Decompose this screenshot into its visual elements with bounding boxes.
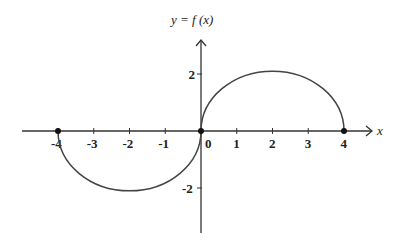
- x-tick-label: -3: [87, 136, 98, 151]
- closed-endpoint-dot: [341, 128, 347, 134]
- closed-endpoint-dot: [55, 128, 61, 134]
- function-curve: [201, 71, 344, 131]
- axes: [22, 40, 372, 233]
- x-tick-label: 3: [305, 136, 312, 151]
- y-tick-label: 2: [189, 67, 196, 82]
- x-tick-label: 0: [205, 136, 212, 151]
- x-tick-label: -2: [123, 136, 134, 151]
- y-axis-title: y = f (x): [169, 12, 213, 27]
- x-tick-label: -1: [158, 136, 169, 151]
- x-axis-title: x: [376, 123, 383, 138]
- x-tick-label: 4: [341, 136, 348, 151]
- x-tick-label: 2: [269, 136, 276, 151]
- closed-endpoint-dot: [198, 128, 204, 134]
- y-tick-label: -2: [182, 181, 193, 196]
- x-tick-label: 1: [233, 136, 240, 151]
- function-graph: -4-3-2-101234 2-2 y = f (x) x: [0, 0, 402, 248]
